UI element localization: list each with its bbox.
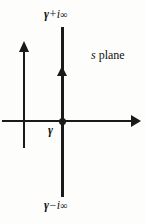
label-s-variable: s xyxy=(91,48,96,62)
imaginary-axis-line xyxy=(23,50,25,148)
bromwich-contour-figure: γ+i∞ γ−i∞ γ s plane xyxy=(0,0,146,224)
label-gamma-symbol: γ xyxy=(48,123,53,137)
label-gamma-abscissa: γ xyxy=(48,124,53,136)
label-bottom-infinity: ∞ xyxy=(60,200,67,211)
label-bottom-operator: − xyxy=(49,198,57,212)
real-axis-arrowhead-icon xyxy=(131,115,141,127)
label-s-plane: s plane xyxy=(91,49,125,61)
label-top-operator: + xyxy=(49,7,57,21)
label-top-infinity: ∞ xyxy=(60,9,67,20)
label-gamma-minus-i-infinity: γ−i∞ xyxy=(44,199,67,211)
gamma-point-marker xyxy=(59,118,66,125)
contour-direction-arrowhead-icon xyxy=(57,66,67,76)
label-gamma-plus-i-infinity: γ+i∞ xyxy=(44,8,67,20)
label-plane-word: plane xyxy=(99,48,125,62)
imaginary-axis-arrowhead-icon xyxy=(19,41,29,52)
real-axis-line xyxy=(2,120,135,122)
bromwich-contour-line xyxy=(61,27,64,197)
